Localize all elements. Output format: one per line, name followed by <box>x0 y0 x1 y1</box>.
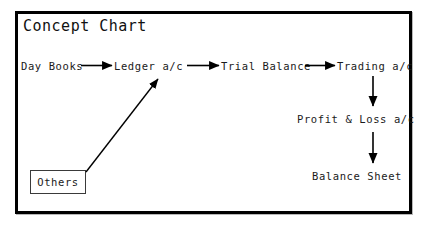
node-ledger-ac: Ledger a/c <box>114 60 183 72</box>
node-profit-and-loss-ac: Profit & Loss a/c <box>297 113 415 125</box>
node-others-label: Others <box>37 176 79 188</box>
node-others-box: Others <box>30 170 86 194</box>
node-balance-sheet: Balance Sheet <box>312 170 402 182</box>
node-trading-ac: Trading a/c <box>337 60 413 72</box>
node-day-books: Day Books <box>21 60 83 72</box>
page-title: Concept Chart <box>23 17 147 35</box>
node-trial-balance: Trial Balance <box>221 60 311 72</box>
concept-chart-screenshot: Concept Chart Day Books Ledger a/c Trial… <box>0 0 431 227</box>
